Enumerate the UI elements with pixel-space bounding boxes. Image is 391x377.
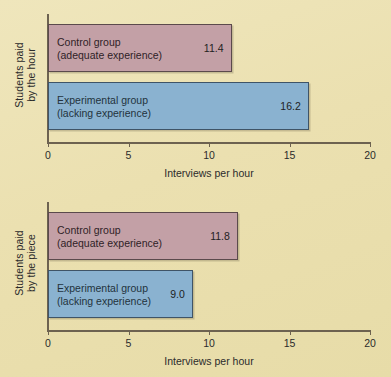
x-tick-label-15: 15 <box>270 337 310 349</box>
bar-value-experimental-group: 16.2 <box>280 100 300 112</box>
bar-label-control-group: Control group (adequate experience) <box>57 224 162 249</box>
x-tick-label-0: 0 <box>28 337 68 349</box>
bar-value-control-group: 11.4 <box>204 42 224 54</box>
x-tick-0 <box>48 330 49 335</box>
x-tick-10 <box>209 142 210 147</box>
x-axis-title: Interviews per hour <box>48 167 370 179</box>
x-tick-label-10: 10 <box>189 149 229 161</box>
x-tick-15 <box>290 142 291 147</box>
bar-experimental-group: Experimental group (lacking experience) … <box>48 270 193 318</box>
x-tick-0 <box>48 142 49 147</box>
bar-control-group: Control group (adequate experience) 11.8 <box>48 212 238 260</box>
chart-panel-paid-by-the-piece: Students paid by the piece 0 5 10 15 20 … <box>0 188 391 377</box>
plot-area-bottom: 0 5 10 15 20 Control group (adequate exp… <box>48 210 370 330</box>
x-tick-label-20: 20 <box>350 337 390 349</box>
x-tick-5 <box>129 142 130 147</box>
y-axis-title: Students paid by the hour <box>12 16 38 134</box>
y-axis-title: Students paid by the piece <box>12 204 38 322</box>
x-tick-label-15: 15 <box>270 149 310 161</box>
x-tick-label-5: 5 <box>109 337 149 349</box>
figure: Students paid by the hour 0 5 10 15 20 C… <box>0 0 391 377</box>
bar-label-experimental-group: Experimental group (lacking experience) <box>57 94 151 119</box>
plot-area-top: 0 5 10 15 20 Control group (adequate exp… <box>48 22 370 142</box>
x-tick-20 <box>370 142 371 147</box>
x-axis-title: Interviews per hour <box>48 355 370 367</box>
x-tick-15 <box>290 330 291 335</box>
x-tick-label-20: 20 <box>350 149 390 161</box>
x-tick-label-10: 10 <box>189 337 229 349</box>
x-tick-20 <box>370 330 371 335</box>
x-tick-10 <box>209 330 210 335</box>
chart-panel-paid-by-the-hour: Students paid by the hour 0 5 10 15 20 C… <box>0 0 391 188</box>
bar-experimental-group: Experimental group (lacking experience) … <box>48 82 309 130</box>
x-tick-label-0: 0 <box>28 149 68 161</box>
x-tick-label-5: 5 <box>109 149 149 161</box>
bar-label-control-group: Control group (adequate experience) <box>57 36 162 61</box>
bar-label-experimental-group: Experimental group (lacking experience) <box>57 282 151 307</box>
x-tick-5 <box>129 330 130 335</box>
bar-value-experimental-group: 9.0 <box>170 288 185 300</box>
bar-value-control-group: 11.8 <box>210 230 230 242</box>
bar-control-group: Control group (adequate experience) 11.4 <box>48 24 232 72</box>
